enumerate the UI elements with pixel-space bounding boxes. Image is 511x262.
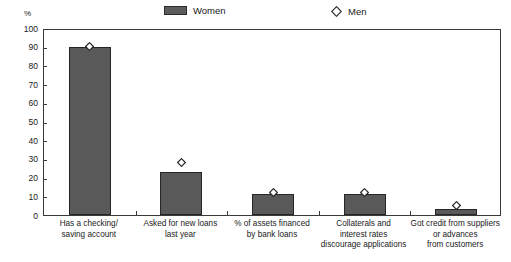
bar-women-3: [252, 194, 294, 215]
y-axis-tick-mark: [43, 85, 47, 86]
category-label-line: saving account: [37, 230, 141, 241]
category-label-line: from customers: [403, 240, 507, 251]
x-axis-tick-mark: [319, 211, 320, 215]
x-axis-category-label-2: Asked for new loanslast year: [129, 219, 233, 240]
y-axis-tick-mark: [43, 123, 47, 124]
plot-area: [43, 29, 501, 216]
x-axis-category-label-3: % of assets financedby bank loans: [220, 219, 324, 240]
bar-women-1: [69, 47, 111, 215]
y-axis-tick-mark: [43, 104, 47, 105]
legend-item-women: Women: [164, 6, 226, 16]
category-label-line: Collaterals and: [312, 219, 416, 230]
y-axis-tick-label: 50: [29, 118, 38, 127]
y-axis-tick-mark: [43, 66, 47, 67]
y-axis-tick-label: 100: [24, 25, 38, 34]
y-axis-labels: 0102030405060708090100: [0, 0, 38, 262]
diamond-marker-icon: [331, 6, 342, 17]
y-axis-tick-label: 90: [29, 43, 38, 52]
chart-container: Women Men % 0102030405060708090100 Has a…: [0, 0, 511, 262]
y-axis-tick-mark: [43, 197, 47, 198]
x-axis-tick-mark: [227, 211, 228, 215]
category-label-line: last year: [129, 230, 233, 241]
category-label-line: discourage applications: [312, 240, 416, 251]
category-label-line: Got credit from suppliers: [403, 219, 507, 230]
category-label-line: or advances: [403, 230, 507, 241]
legend-item-men: Men: [331, 6, 366, 17]
y-axis-tick-mark: [43, 160, 47, 161]
category-label-line: Asked for new loans: [129, 219, 233, 230]
diamond-men-3: [269, 188, 278, 197]
y-axis-tick-label: 40: [29, 137, 38, 146]
y-axis-tick-label: 30: [29, 155, 38, 164]
y-axis-tick-mark: [43, 141, 47, 142]
x-axis-tick-mark: [410, 211, 411, 215]
x-axis-category-labels: Has a checking/saving accountAsked for n…: [43, 219, 501, 262]
category-label-line: % of assets financed: [220, 219, 324, 230]
legend-label-women: Women: [193, 6, 226, 16]
category-label-line: by bank loans: [220, 230, 324, 241]
x-axis-category-label-5: Got credit from suppliersor advancesfrom…: [403, 219, 507, 251]
diamond-men-4: [360, 188, 369, 197]
x-axis-category-label-4: Collaterals andinterest ratesdiscourage …: [312, 219, 416, 251]
y-axis-tick-mark: [43, 48, 47, 49]
category-label-line: interest rates: [312, 230, 416, 241]
y-axis-tick-mark: [43, 179, 47, 180]
diamond-men-1: [85, 42, 94, 51]
bar-women-4: [344, 194, 386, 215]
bar-swatch-icon: [164, 6, 187, 15]
diamond-men-5: [452, 201, 461, 210]
y-axis-tick-label: 70: [29, 81, 38, 90]
bar-women-2: [160, 172, 202, 215]
x-axis-tick-mark: [136, 211, 137, 215]
y-axis-tick-label: 80: [29, 62, 38, 71]
category-label-line: Has a checking/: [37, 219, 141, 230]
legend-label-men: Men: [348, 7, 366, 17]
x-axis-category-label-1: Has a checking/saving account: [37, 219, 141, 240]
diamond-men-2: [177, 158, 186, 167]
y-axis-tick-label: 20: [29, 174, 38, 183]
plot-inner: [44, 30, 500, 215]
y-axis-tick-label: 60: [29, 99, 38, 108]
y-axis-tick-label: 10: [29, 193, 38, 202]
chart-legend: Women Men: [0, 5, 511, 19]
